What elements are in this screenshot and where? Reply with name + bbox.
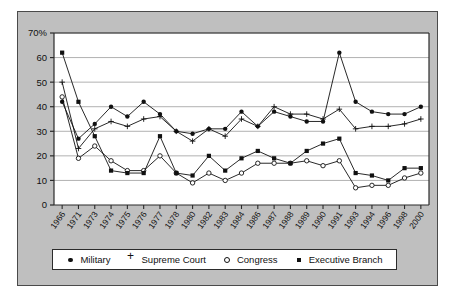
point-2-1994 (370, 183, 374, 187)
x-tick-label-1991: 1991 (325, 209, 344, 230)
x-tick-label-1977: 1977 (146, 209, 165, 230)
point-0-1991 (337, 50, 341, 54)
point-2-1989 (305, 159, 309, 163)
point-2-1987 (272, 161, 276, 165)
point-3-1982 (207, 154, 211, 158)
point-2-2000 (419, 171, 423, 175)
point-0-1998 (402, 112, 406, 116)
point-3-1998 (402, 166, 406, 170)
point-3-1975 (125, 171, 129, 175)
point-2-1980 (190, 181, 194, 185)
point-0-1980 (190, 132, 194, 136)
x-tick-label-1984: 1984 (228, 209, 247, 230)
point-3-1989 (305, 149, 309, 153)
point-2-1990 (321, 163, 325, 167)
point-3-1973 (93, 134, 97, 138)
point-3-1983 (223, 169, 227, 173)
x-tick-label-1983: 1983 (211, 209, 230, 230)
x-tick-label-1974: 1974 (97, 209, 116, 230)
point-0-1984 (239, 109, 243, 113)
filled-circle-marker-icon (66, 255, 75, 264)
point-3-1991 (337, 137, 341, 141)
point-3-1996 (386, 178, 390, 182)
chart-canvas: 010203040506070%196619711973197419751976… (17, 11, 438, 286)
y-tick-label-40: 40 (36, 101, 47, 112)
legend-label-supreme-court: Supreme Court (142, 254, 206, 265)
x-tick-label-1987: 1987 (260, 209, 279, 230)
point-2-1996 (386, 183, 390, 187)
point-3-1993 (354, 171, 358, 175)
y-tick-label-30: 30 (36, 126, 47, 137)
point-0-1993 (353, 100, 357, 104)
point-0-1976 (141, 100, 145, 104)
point-0-1975 (125, 114, 129, 118)
point-3-1988 (288, 161, 292, 165)
y-tick-label-60: 60 (36, 52, 47, 63)
x-tick-label-1980: 1980 (179, 209, 198, 230)
x-tick-label-1998: 1998 (391, 209, 410, 230)
y-tick-label-20: 20 (36, 150, 47, 161)
x-tick-label-1989: 1989 (293, 209, 312, 230)
point-3-1990 (321, 141, 325, 145)
point-0-1994 (370, 109, 374, 113)
filled-square-marker-icon (295, 255, 304, 264)
x-tick-label-1990: 1990 (309, 209, 328, 230)
chart-screenshot: 010203040506070%196619711973197419751976… (0, 0, 454, 297)
point-2-1966 (60, 95, 64, 99)
plus-marker-icon (128, 255, 137, 264)
x-tick-label-1976: 1976 (130, 209, 149, 230)
point-2-1986 (256, 161, 260, 165)
x-tick-label-1966: 1966 (48, 209, 67, 230)
point-3-1966 (60, 51, 64, 55)
x-tick-label-1994: 1994 (358, 209, 377, 230)
legend-label-military: Military (80, 254, 110, 265)
legend-item-congress: Congress (223, 254, 278, 265)
y-tick-label-50: 50 (36, 77, 47, 88)
point-0-1989 (305, 119, 309, 123)
point-2-1998 (402, 176, 406, 180)
point-2-1977 (158, 154, 162, 158)
y-tick-label-70: 70% (28, 27, 48, 38)
point-3-1984 (239, 156, 243, 160)
x-tick-label-1993: 1993 (342, 209, 361, 230)
point-3-1971 (76, 100, 80, 104)
point-0-1973 (93, 122, 97, 126)
point-2-1993 (353, 186, 357, 190)
point-0-2000 (419, 105, 423, 109)
x-tick-label-1986: 1986 (244, 209, 263, 230)
point-3-1976 (142, 171, 146, 175)
legend-item-supreme-court: Supreme Court (128, 254, 206, 265)
point-3-1987 (272, 156, 276, 160)
point-3-1977 (158, 134, 162, 138)
x-tick-label-1978: 1978 (162, 209, 181, 230)
point-2-1973 (93, 144, 97, 148)
y-tick-label-0: 0 (42, 199, 47, 210)
point-3-2000 (419, 166, 423, 170)
point-2-1984 (239, 171, 243, 175)
x-tick-label-1982: 1982 (195, 209, 214, 230)
x-tick-label-1971: 1971 (65, 209, 84, 230)
point-2-1991 (337, 159, 341, 163)
point-0-1996 (386, 112, 390, 116)
legend-item-military: Military (66, 254, 110, 265)
point-3-1978 (174, 171, 178, 175)
point-0-1974 (109, 105, 113, 109)
open-circle-marker-icon (223, 255, 232, 264)
point-0-1971 (76, 136, 80, 140)
point-2-1983 (223, 178, 227, 182)
point-0-1987 (272, 109, 276, 113)
point-0-1983 (223, 127, 227, 131)
chart-legend: Military Supreme Court Congress Executiv… (52, 249, 397, 270)
point-3-1986 (256, 149, 260, 153)
line-chart: 010203040506070%196619711973197419751976… (17, 11, 438, 286)
legend-item-executive-branch: Executive Branch (295, 254, 383, 265)
point-3-1974 (109, 169, 113, 173)
point-3-1994 (370, 173, 374, 177)
y-tick-label-10: 10 (36, 175, 47, 186)
point-2-1971 (76, 156, 80, 160)
point-3-1980 (190, 173, 194, 177)
x-tick-label-1996: 1996 (374, 209, 393, 230)
x-tick-label-1988: 1988 (277, 209, 296, 230)
point-2-1974 (109, 159, 113, 163)
x-tick-label-2000: 2000 (407, 209, 426, 230)
